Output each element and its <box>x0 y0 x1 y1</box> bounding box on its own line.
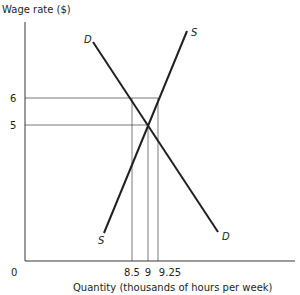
demand-label-bottom: D <box>222 231 230 242</box>
x-tick-9: 9 <box>145 267 151 278</box>
supply-label-top: S <box>191 27 198 38</box>
origin-label: 0 <box>11 267 17 278</box>
demand-label-top: D <box>84 34 92 45</box>
y-axis-label: Wage rate ($) <box>2 4 71 15</box>
x-axis-label: Quantity (thousands of hours per week) <box>73 282 273 293</box>
supply-curve <box>104 31 187 233</box>
demand-curve <box>93 42 218 232</box>
supply-demand-chart: D D S S Wage rate ($) 6 5 0 8.5 9 9.25 Q… <box>0 0 300 295</box>
y-tick-5: 5 <box>10 120 16 131</box>
y-tick-6: 6 <box>10 93 16 104</box>
supply-label-bottom: S <box>98 235 105 246</box>
x-tick-8.5: 8.5 <box>124 267 140 278</box>
x-tick-9.25: 9.25 <box>159 267 181 278</box>
